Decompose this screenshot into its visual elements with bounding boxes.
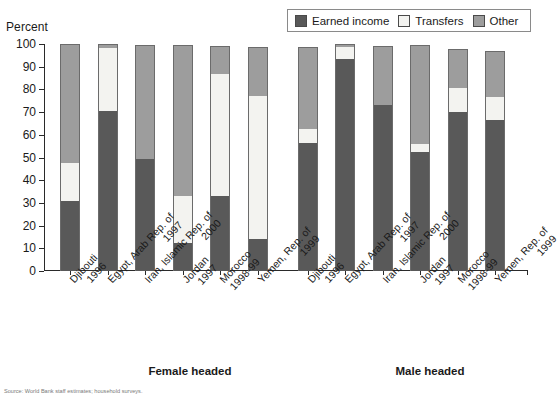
bar-segment-earned-income: [61, 201, 79, 271]
y-axis-tick-label: 70: [23, 105, 36, 119]
y-axis-tick: [39, 67, 44, 68]
bar-segment-earned-income: [336, 59, 354, 271]
bar-segment-other: [211, 47, 229, 74]
legend-item: Earned income: [295, 15, 389, 27]
y-axis-tick-label: 60: [23, 128, 36, 142]
bar-segment-transfers: [336, 47, 354, 58]
y-axis-tick: [39, 180, 44, 181]
y-axis-line: [44, 44, 45, 271]
stacked-bar[interactable]: [98, 44, 118, 271]
group-caption: Female headed: [100, 365, 280, 377]
y-axis-tick-label: 100: [16, 37, 36, 51]
stacked-bar[interactable]: [210, 46, 230, 271]
bar-segment-transfers: [411, 144, 429, 152]
y-axis-title: Percent: [6, 20, 48, 34]
y-axis-tick: [39, 226, 44, 227]
stacked-bar[interactable]: [248, 47, 268, 271]
legend-label: Other: [490, 15, 519, 27]
legend-item: Other: [473, 15, 519, 27]
y-axis-tick: [39, 158, 44, 159]
y-axis-tick-label: 40: [23, 173, 36, 187]
bar-segment-other: [411, 46, 429, 144]
y-axis-tick: [39, 112, 44, 113]
bar-segment-transfers: [99, 48, 117, 110]
y-axis-tick: [39, 135, 44, 136]
chart-legend: Earned incomeTransfersOther: [287, 9, 531, 32]
bar-segment-earned-income: [486, 120, 504, 271]
y-axis-tick-label: 30: [23, 196, 36, 210]
legend-label: Earned income: [312, 15, 389, 27]
y-axis-tick: [39, 203, 44, 204]
group-caption: Male headed: [340, 365, 520, 377]
bar-segment-other: [136, 46, 154, 159]
bar-segment-earned-income: [449, 112, 467, 271]
stacked-bar[interactable]: [60, 44, 80, 271]
bar-segment-other: [374, 47, 392, 105]
y-axis-tick-label: 80: [23, 82, 36, 96]
y-axis-tick-label: 20: [23, 219, 36, 233]
y-axis-tick-label: 50: [23, 151, 36, 165]
bar-segment-transfers: [449, 88, 467, 112]
legend-swatch-other: [473, 15, 485, 27]
chart-plot-area: 0102030405060708090100: [44, 44, 528, 271]
bar-segment-transfers: [61, 163, 79, 201]
bar-segment-other: [486, 52, 504, 97]
source-note: Source: World Bank staff estimates; hous…: [4, 388, 142, 394]
y-axis-tick-label: 0: [29, 264, 36, 278]
bar-segment-earned-income: [99, 111, 117, 271]
stacked-bar[interactable]: [448, 49, 468, 271]
bar-segment-transfers: [211, 74, 229, 195]
bar-segment-transfers: [486, 97, 504, 120]
bar-segment-other: [61, 45, 79, 163]
y-axis-tick-label: 90: [23, 60, 36, 74]
bar-segment-other: [299, 48, 317, 128]
stacked-bar[interactable]: [485, 51, 505, 271]
bar-segment-other: [449, 50, 467, 88]
y-axis-tick: [39, 248, 44, 249]
bar-segment-other: [174, 46, 192, 196]
legend-swatch-earned-income: [295, 15, 307, 27]
stacked-bar[interactable]: [335, 44, 355, 271]
legend-item: Transfers: [398, 15, 463, 27]
legend-label: Transfers: [415, 15, 463, 27]
y-axis-tick: [39, 89, 44, 90]
y-axis-tick: [39, 271, 44, 272]
y-axis-tick: [39, 44, 44, 45]
y-axis-tick-label: 10: [23, 241, 36, 255]
bar-segment-other: [249, 48, 267, 95]
bar-segment-transfers: [249, 96, 267, 239]
legend-swatch-transfers: [398, 15, 410, 27]
bar-segment-transfers: [299, 129, 317, 144]
